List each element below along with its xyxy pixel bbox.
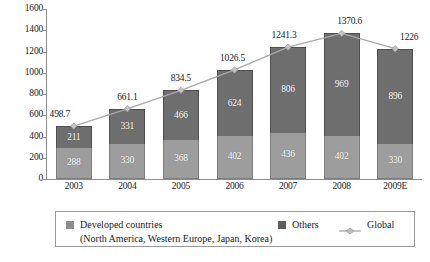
legend-label-others: Others — [292, 220, 319, 230]
y-axis-tick-label: 1000 — [25, 68, 43, 78]
y-axis-tick-label: 1600 — [25, 4, 43, 14]
y-axis-tick-mark — [42, 9, 46, 10]
legend-swatch-developed — [66, 221, 74, 229]
x-axis-tick-label: 2007 — [279, 182, 297, 192]
legend-swatch-others — [278, 221, 286, 229]
global-value-label: 834.5 — [171, 74, 191, 84]
y-axis-tick-labels: 16001400120010008006004002000 — [10, 9, 43, 179]
y-axis-tick-mark — [42, 137, 46, 138]
stacked-bar-chart: 16001400120010008006004002000 2112883313… — [0, 0, 430, 262]
x-axis-line — [46, 179, 422, 180]
x-axis-tick-label: 2009E — [383, 182, 407, 192]
y-axis-tick-mark — [42, 73, 46, 74]
global-value-label: 1241.3 — [272, 31, 297, 41]
x-axis-tick-labels: 2003200420052006200720082009E — [47, 182, 422, 196]
y-axis-tick-label: 1200 — [25, 47, 43, 57]
global-value-labels: 498.7661.1834.51026.51241.31370.61226 — [47, 9, 422, 179]
legend-sublabel-developed-regions: (North America, Western Europe, Japan, K… — [80, 234, 272, 244]
y-axis-tick-label: 400 — [29, 132, 43, 142]
y-axis-tick-mark — [42, 158, 46, 159]
global-value-label: 498.7 — [50, 110, 70, 120]
y-axis-tick-label: 800 — [29, 89, 43, 99]
y-axis-tick-label: 200 — [29, 153, 43, 163]
y-axis-tick-mark — [42, 52, 46, 53]
y-axis-tick-label: 600 — [29, 111, 43, 121]
legend-label-global: Global — [367, 220, 394, 230]
global-value-label: 661.1 — [117, 92, 137, 102]
global-value-label: 1026.5 — [220, 53, 245, 63]
plot-area: 16001400120010008006004002000 2112883313… — [0, 0, 430, 200]
global-value-label: 1370.6 — [337, 17, 362, 27]
legend-marker-global-line — [339, 221, 361, 229]
y-axis-tick-mark — [42, 94, 46, 95]
y-axis-tick-label: 1400 — [25, 26, 43, 36]
x-axis-tick-label: 2006 — [225, 182, 243, 192]
x-axis-tick-label: 2004 — [118, 182, 136, 192]
x-axis-tick-label: 2003 — [65, 182, 83, 192]
chart-legend: Developed countries (North America, West… — [55, 211, 415, 247]
global-value-label: 1226 — [400, 32, 418, 42]
y-axis-tick-mark — [42, 30, 46, 31]
legend-label-developed: Developed countries — [80, 220, 162, 230]
x-axis-tick-label: 2005 — [172, 182, 190, 192]
x-axis-tick-label: 2008 — [333, 182, 351, 192]
y-axis-tick-mark — [42, 179, 46, 180]
y-axis-tick-mark — [42, 115, 46, 116]
